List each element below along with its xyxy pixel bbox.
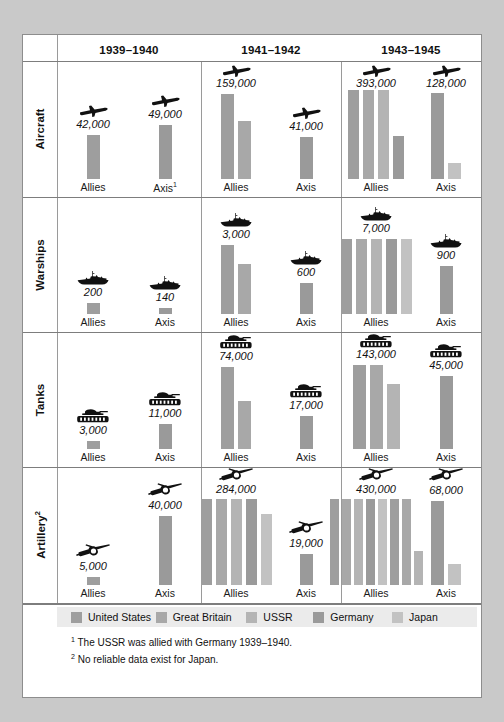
bar-group: [431, 83, 461, 179]
side-caption-footnote-marker: 1: [173, 181, 177, 188]
side-caption: Axis1: [129, 181, 201, 194]
bar: [300, 283, 313, 314]
value-label: 128,000: [411, 77, 481, 89]
legend-label: USSR: [263, 611, 292, 623]
row-label-warships: Warships: [23, 197, 57, 332]
side-caption-text: Axis: [296, 316, 316, 328]
value-label: 600: [271, 266, 341, 278]
side-caption: Axis: [271, 587, 341, 599]
bar-group: [87, 218, 100, 314]
side-caption: Axis: [271, 451, 341, 463]
side-caption-text: Axis: [155, 587, 175, 599]
bar: [354, 499, 363, 585]
column-header-3: 1943–1945: [341, 39, 481, 61]
value-label: 68,000: [411, 484, 481, 496]
value-label: 159,000: [201, 77, 271, 89]
bar: [440, 266, 453, 314]
side-caption-text: Axis: [436, 587, 456, 599]
legend-item-germany[interactable]: Germany: [313, 611, 373, 623]
bar-group: [330, 489, 423, 585]
bar: [238, 264, 251, 314]
side-caption: Allies: [341, 181, 411, 193]
column-header-2: 1941–1942: [201, 39, 341, 61]
side-caption: Axis: [129, 451, 201, 463]
bar: [300, 416, 313, 449]
value-label: 49,000: [129, 108, 201, 120]
side-caption-text: Axis: [296, 181, 316, 193]
bar: [378, 499, 387, 585]
value-label: 143,000: [341, 348, 411, 360]
side-caption-text: Allies: [80, 316, 105, 328]
cell-aircraft-1-allies: 42,000Allies: [57, 61, 129, 197]
artillery-icon: [57, 543, 129, 559]
cell-aircraft-1-axis: 49,000Axis1: [129, 61, 201, 197]
cell-warships-1-allies: 200Allies: [57, 197, 129, 332]
bar: [87, 577, 100, 585]
cell-artillery-1-allies: 5,000Allies: [57, 467, 129, 603]
cell-tanks-2-allies: 74,000Allies: [201, 332, 271, 467]
tank-icon: [411, 342, 481, 358]
legend-swatch: [313, 612, 324, 623]
side-caption: Allies: [57, 587, 129, 599]
cell-artillery-3-allies: 430,000Allies: [341, 467, 411, 603]
legend-item-united-states[interactable]: United States: [71, 611, 151, 623]
bar: [348, 90, 359, 179]
bar: [363, 90, 374, 179]
bar-group: [221, 353, 251, 449]
bar-group: [221, 83, 251, 179]
artillery-icon: [341, 467, 411, 483]
cell-tanks-1-axis: 11,000Axis: [129, 332, 201, 467]
bar: [159, 125, 172, 179]
artillery-icon: [201, 467, 271, 483]
side-caption: Allies: [57, 316, 129, 328]
aircraft-icon: [341, 61, 411, 77]
value-label: 74,000: [201, 350, 271, 362]
bar: [440, 376, 453, 449]
bar: [431, 501, 444, 585]
cell-aircraft-2-allies: 159,000Allies: [201, 61, 271, 197]
row-label-artillery: Artillery2: [23, 467, 57, 603]
side-caption-text: Axis: [436, 316, 456, 328]
bar: [216, 499, 227, 585]
cell-tanks-3-axis: 45,000Axis: [411, 332, 481, 467]
tank-icon: [201, 333, 271, 349]
grid-hline: [23, 603, 481, 605]
aircraft-icon: [411, 61, 481, 77]
bar-group: [431, 489, 461, 585]
side-caption-text: Allies: [80, 587, 105, 599]
bar: [353, 365, 366, 449]
bar: [393, 136, 404, 179]
bar: [401, 239, 412, 314]
legend-item-great-britain[interactable]: Great Britain: [156, 611, 232, 623]
footnote-text: The USSR was allied with Germany 1939–19…: [75, 637, 292, 648]
cell-warships-2-allies: 3,000Allies: [201, 197, 271, 332]
row-label-text: Tanks: [34, 383, 46, 415]
legend: United StatesGreat BritainUSSRGermanyJap…: [57, 607, 477, 627]
legend-swatch: [246, 612, 257, 623]
footnote-text: No reliable data exist for Japan.: [75, 655, 218, 666]
bar: [402, 499, 411, 585]
bar: [366, 499, 375, 585]
legend-item-japan[interactable]: Japan: [392, 611, 438, 623]
side-caption: Allies: [341, 451, 411, 463]
row-label-text: Warships: [34, 239, 46, 290]
cell-tanks-1-allies: 3,000Allies: [57, 332, 129, 467]
tank-icon: [341, 332, 411, 348]
artillery-icon: [129, 482, 201, 498]
value-label: 5,000: [57, 560, 129, 572]
value-label: 140: [129, 291, 201, 303]
legend-item-ussr[interactable]: USSR: [246, 611, 292, 623]
side-caption-text: Axis: [436, 451, 456, 463]
bar: [87, 303, 100, 314]
side-caption: Allies: [57, 181, 129, 193]
cell-artillery-1-axis: 40,000Axis: [129, 467, 201, 603]
legend-swatch: [392, 612, 403, 623]
bar: [356, 239, 367, 314]
side-caption: Axis: [411, 316, 481, 328]
cell-aircraft-3-allies: 393,000Allies: [341, 61, 411, 197]
value-label: 42,000: [57, 118, 129, 130]
warship-icon: [341, 205, 411, 221]
aircraft-icon: [129, 91, 201, 107]
value-label: 430,000: [341, 483, 411, 495]
value-label: 40,000: [129, 499, 201, 511]
